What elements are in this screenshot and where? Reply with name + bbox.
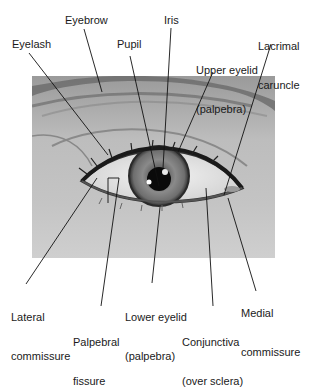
leader-line-eyelash	[29, 53, 108, 155]
label-lacrimal-caruncle-line2: caruncle	[258, 79, 300, 92]
label-conjunctiva: Conjunctiva (over sclera)	[182, 310, 243, 391]
label-palpebral-fissure-line1: Palpebral	[73, 336, 119, 349]
label-medial-commissure-line1: Medial	[241, 307, 300, 320]
label-conjunctiva-line2: (over sclera)	[182, 375, 243, 388]
label-lateral-commissure-line2: commissure	[11, 350, 70, 363]
leader-line-pupil	[130, 56, 159, 186]
leader-line-lateral-commissure	[26, 178, 97, 284]
label-lateral-commissure: Lateral commissure	[11, 285, 70, 389]
label-lower-eyelid-line1: Lower eyelid	[125, 311, 187, 324]
label-upper-eyelid-line1: Upper eyelid	[196, 64, 258, 77]
label-eyebrow: Eyebrow	[65, 14, 108, 27]
label-lateral-commissure-line1: Lateral	[11, 311, 70, 324]
label-lacrimal-caruncle: Lacrimal caruncle	[258, 14, 300, 118]
label-lacrimal-caruncle-line1: Lacrimal	[258, 40, 300, 53]
label-eyelash: Eyelash	[12, 38, 51, 51]
leader-line-eyebrow	[84, 29, 102, 92]
leader-line-conjunctiva	[206, 188, 213, 306]
label-lower-eyelid: Lower eyelid (palpebra)	[125, 285, 187, 389]
leader-line-palpebral-fissure	[101, 178, 119, 306]
leader-line-iris	[163, 28, 171, 168]
leader-line-lower-eyelid	[152, 207, 160, 283]
leader-line-medial-commissure	[228, 198, 256, 291]
label-iris: Iris	[164, 14, 179, 27]
label-upper-eyelid-line2: (palpebra)	[196, 103, 258, 116]
label-upper-eyelid: Upper eyelid (palpebra)	[196, 38, 258, 142]
label-medial-commissure: Medial commissure	[241, 281, 300, 385]
label-medial-commissure-line2: commissure	[241, 346, 300, 359]
label-conjunctiva-line1: Conjunctiva	[182, 336, 243, 349]
label-palpebral-fissure-line2: fissure	[73, 375, 119, 388]
label-lower-eyelid-line2: (palpebra)	[125, 350, 187, 363]
label-palpebral-fissure: Palpebral fissure	[73, 310, 119, 391]
label-pupil: Pupil	[117, 38, 141, 51]
